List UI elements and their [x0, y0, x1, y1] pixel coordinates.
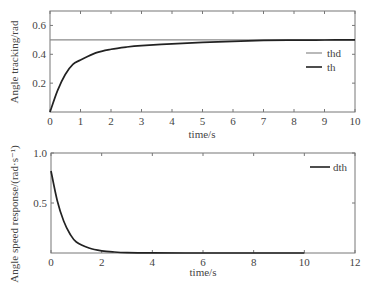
legend: dth — [310, 161, 348, 173]
y-axis-ticks: 0.51.0 — [33, 147, 355, 209]
x-tick-label: 0 — [47, 115, 53, 127]
plot-frame — [50, 11, 355, 112]
y-axis-ticks: 0.20.40.6 — [32, 19, 355, 89]
x-axis-label: time/s — [190, 266, 217, 278]
x-tick-label: 12 — [350, 256, 361, 268]
plot-series — [50, 40, 355, 112]
y-tick-label: 0.5 — [33, 197, 47, 209]
x-tick-label: 9 — [322, 115, 328, 127]
x-tick-label: 0 — [48, 256, 54, 268]
figure: 012345678910 0.20.40.6 time/s Angle trac… — [0, 0, 370, 288]
y-tick-label: 0.6 — [32, 19, 46, 31]
x-tick-label: 10 — [350, 115, 362, 127]
y-tick-label: 1.0 — [33, 147, 47, 159]
angle-speed-plot: 024681012 0.51.0 time/s Angle speed resp… — [8, 145, 361, 283]
x-tick-label: 2 — [108, 115, 114, 127]
series-dth-line — [51, 171, 304, 253]
series-th-line — [50, 40, 355, 112]
y-tick-label: 0.4 — [32, 48, 46, 60]
legend-label-th: th — [327, 61, 336, 73]
x-axis-label: time/s — [189, 128, 216, 140]
x-tick-label: 1 — [78, 115, 84, 127]
y-tick-label: 0.2 — [32, 77, 46, 89]
x-tick-label: 3 — [139, 115, 145, 127]
x-tick-label: 10 — [299, 256, 311, 268]
plot-series — [51, 171, 304, 253]
x-tick-label: 4 — [150, 256, 156, 268]
x-axis-ticks: 024681012 — [48, 153, 360, 268]
angle-tracking-plot: 012345678910 0.20.40.6 time/s Angle trac… — [8, 11, 361, 140]
x-tick-label: 8 — [251, 256, 257, 268]
legend-label-thd: thd — [327, 47, 342, 59]
x-tick-label: 8 — [291, 115, 297, 127]
y-axis-label: Angle tracking/rad — [8, 20, 20, 103]
y-axis-label: Angle speed response/(rad·s⁻¹) — [8, 145, 21, 283]
x-tick-label: 2 — [99, 256, 105, 268]
legend-label-dth: dth — [333, 161, 348, 173]
legend: thd th — [306, 47, 342, 73]
x-axis-ticks: 012345678910 — [47, 11, 361, 127]
x-tick-label: 7 — [261, 115, 267, 127]
x-tick-label: 4 — [169, 115, 175, 127]
x-tick-label: 5 — [200, 115, 206, 127]
plot-frame — [51, 153, 355, 253]
x-tick-label: 6 — [230, 115, 236, 127]
